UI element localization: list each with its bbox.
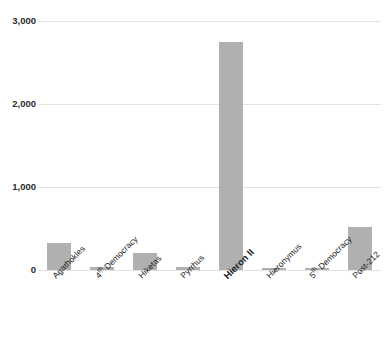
y-axis-tick-label: 2,000	[0, 99, 36, 109]
bar-slot	[262, 21, 286, 270]
gridline	[38, 270, 381, 271]
bar-slot	[90, 21, 114, 270]
bar-slot	[176, 21, 200, 270]
y-axis-tick-label: 0	[0, 265, 36, 275]
bar-slot	[348, 21, 372, 270]
bar-slot	[305, 21, 329, 270]
bar[interactable]	[219, 42, 243, 270]
chart-title	[0, 0, 389, 7]
bar-slot	[133, 21, 157, 270]
bar-chart: 3,0002,0001,0000 Agathokles4th Democracy…	[0, 0, 389, 341]
bar-slot	[47, 21, 71, 270]
bar-slot	[219, 21, 243, 270]
y-axis-tick-label: 3,000	[0, 16, 36, 26]
y-axis-tick-label: 1,000	[0, 182, 36, 192]
plot-area	[38, 21, 381, 270]
